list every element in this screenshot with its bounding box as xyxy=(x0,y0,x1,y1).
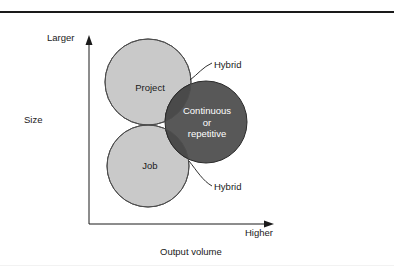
leader-line-hybrid-top xyxy=(190,63,212,80)
process-type-positioning-diagram: Size Larger Higher Output volume Project… xyxy=(0,0,394,270)
y-axis-max-label: Larger xyxy=(47,32,74,43)
annotation-hybrid-bottom: Hybrid xyxy=(214,181,241,192)
bubble-label-project: Project xyxy=(124,82,176,93)
y-axis-label: Size xyxy=(24,114,42,125)
x-axis-label: Output volume xyxy=(160,246,222,257)
y-axis xyxy=(86,35,93,224)
bubble-label-continuous-line2: or xyxy=(203,117,211,128)
annotation-hybrid-top: Hybrid xyxy=(214,59,241,70)
bubble-label-continuous-line3: repetitive xyxy=(188,128,227,139)
bubble-label-job: Job xyxy=(124,160,176,171)
leader-line-hybrid-bottom xyxy=(189,161,212,186)
bubble-label-continuous-line1: Continuous xyxy=(183,105,231,116)
bubble-label-continuous: Continuous or repetitive xyxy=(175,105,239,140)
x-axis-max-label: Higher xyxy=(245,227,273,238)
